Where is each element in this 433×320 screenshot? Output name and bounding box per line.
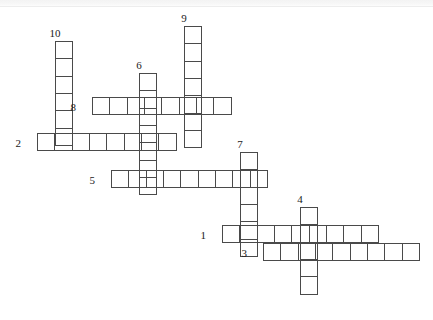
crossword-cell[interactable] (55, 128, 73, 146)
crossword-cell[interactable] (184, 26, 202, 44)
crossword-cell[interactable] (332, 243, 350, 261)
crossword-cell[interactable] (55, 41, 73, 59)
crossword-entry-6-down (139, 73, 157, 194)
crossword-cell[interactable] (280, 243, 298, 261)
crossword-entry-3-across (263, 243, 419, 261)
crossword-cell[interactable] (89, 133, 107, 151)
crossword-cell[interactable] (343, 225, 361, 243)
clue-number-4: 4 (280, 194, 320, 205)
crossword-cell[interactable] (384, 243, 402, 261)
crossword-cell[interactable] (274, 225, 292, 243)
crossword-cell[interactable] (300, 207, 318, 225)
crossword-cell[interactable] (240, 169, 258, 187)
crossword-cell[interactable] (213, 97, 231, 115)
crossword-entry-8-across (92, 97, 231, 115)
clue-number-7: 7 (220, 139, 260, 150)
crossword-cell[interactable] (215, 170, 233, 188)
crossword-cell[interactable] (158, 133, 176, 151)
crossword-cell[interactable] (240, 204, 258, 222)
crossword-cell[interactable] (257, 225, 275, 243)
crossword-cell[interactable] (161, 97, 179, 115)
crossword-entry-7-down (240, 152, 258, 256)
crossword-cell[interactable] (111, 170, 129, 188)
crossword-cell[interactable] (300, 276, 318, 294)
crossword-cell[interactable] (180, 170, 198, 188)
crossword-cell[interactable] (139, 160, 157, 178)
crossword-cell[interactable] (184, 78, 202, 96)
crossword-cell[interactable] (37, 133, 55, 151)
crossword-cell[interactable] (184, 130, 202, 148)
crossword-cell[interactable] (240, 187, 258, 205)
crossword-cell[interactable] (106, 133, 124, 151)
crossword-cell[interactable] (72, 133, 90, 151)
crossword-cell[interactable] (361, 225, 379, 243)
crossword-cell[interactable] (92, 97, 110, 115)
clue-number-9: 9 (164, 13, 204, 24)
crossword-cell[interactable] (139, 177, 157, 195)
crossword-cell[interactable] (240, 152, 258, 170)
crossword-cell[interactable] (184, 113, 202, 131)
crossword-cell[interactable] (139, 125, 157, 143)
crossword-cell[interactable] (222, 225, 240, 243)
crossword-entry-4-down (300, 207, 318, 294)
clue-number-8: 8 (46, 102, 76, 113)
crossword-puzzle: 12345678910 (0, 0, 433, 320)
crossword-entry-10-down (55, 41, 73, 145)
crossword-cell[interactable] (55, 76, 73, 94)
crossword-cell[interactable] (127, 97, 145, 115)
crossword-cell[interactable] (184, 95, 202, 113)
crossword-cell[interactable] (139, 73, 157, 91)
crossword-cell[interactable] (109, 97, 127, 115)
crossword-cell[interactable] (55, 110, 73, 128)
clue-number-6: 6 (119, 60, 159, 71)
crossword-cell[interactable] (300, 224, 318, 242)
crossword-cell[interactable] (367, 243, 385, 261)
crossword-cell[interactable] (402, 243, 420, 261)
clue-number-1: 1 (176, 230, 206, 241)
page-top-band (0, 0, 433, 7)
clue-number-2: 2 (0, 138, 21, 149)
crossword-cell[interactable] (326, 225, 344, 243)
clue-number-5: 5 (65, 175, 95, 186)
crossword-cell[interactable] (139, 142, 157, 160)
clue-number-3: 3 (217, 248, 247, 259)
crossword-cell[interactable] (300, 259, 318, 277)
crossword-cell[interactable] (163, 170, 181, 188)
crossword-cell[interactable] (350, 243, 368, 261)
crossword-entry-9-down (184, 26, 202, 147)
crossword-cell[interactable] (184, 43, 202, 61)
crossword-cell[interactable] (144, 97, 162, 115)
crossword-cell[interactable] (198, 170, 216, 188)
crossword-cell[interactable] (263, 243, 281, 261)
crossword-cell[interactable] (240, 221, 258, 239)
crossword-cell[interactable] (55, 58, 73, 76)
crossword-cell[interactable] (300, 242, 318, 260)
clue-number-10: 10 (35, 28, 75, 39)
crossword-cell[interactable] (184, 61, 202, 79)
